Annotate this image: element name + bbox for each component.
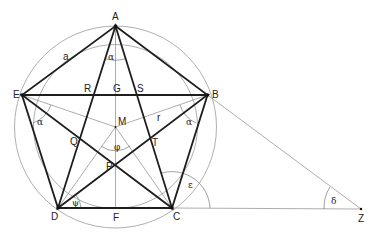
label-Q: Q [70,136,78,147]
point-M [115,126,117,128]
label-B: B [212,89,219,100]
point-Z [360,208,362,210]
label-alpha-A: α [108,52,114,62]
label-Z: Z [358,213,364,224]
diagram-svg: A B C D E F G M P Q R S T Z a r α α α φ … [0,0,380,243]
point-D [56,206,60,210]
label-C: C [173,211,180,222]
label-epsilon: ε [188,180,193,190]
label-G: G [113,83,121,94]
point-A [114,24,118,28]
label-D: D [51,211,58,222]
label-side-a: a [63,51,69,62]
point-C [170,206,174,210]
label-S: S [137,83,144,94]
label-E: E [13,89,20,100]
label-alpha-B: α [186,117,192,127]
label-radius-r: r [157,112,161,123]
angle-arc-delta [324,187,330,209]
radius-line-CM [116,127,173,208]
label-phi: φ [114,142,120,152]
point-B [206,93,210,97]
label-R: R [84,83,91,94]
label-M: M [118,116,126,127]
label-P: P [106,161,113,172]
label-psi: ψ [72,198,79,208]
point-E [20,93,24,97]
label-T: T [152,137,158,148]
line-BZ [208,95,362,209]
line-CZ [172,208,361,209]
label-alpha-E: α [37,117,43,127]
label-F: F [113,212,119,223]
label-A: A [112,11,119,22]
pentagon-diagram: A B C D E F G M P Q R S T Z a r α α α φ … [0,0,380,243]
label-delta: δ [331,196,336,206]
